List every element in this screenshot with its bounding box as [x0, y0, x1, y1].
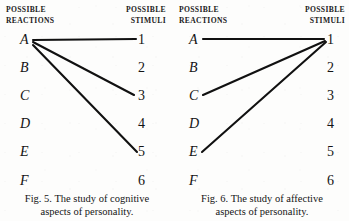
node-stimulus-1: 1: [138, 33, 145, 47]
node-reaction-a: A: [189, 33, 198, 47]
edge-a-to-3: [33, 42, 134, 95]
node-stimulus-2: 2: [138, 61, 145, 75]
figure-5-caption: Fig. 5. The study of cognitive aspects o…: [0, 193, 174, 218]
figure-6-caption-line-1: Fig. 6. The study of affective: [175, 193, 349, 206]
node-reaction-b: B: [20, 61, 29, 75]
node-stimulus-5: 5: [138, 145, 145, 159]
node-stimulus-3: 3: [327, 89, 334, 103]
node-reaction-e: E: [20, 145, 29, 159]
node-reaction-d: D: [20, 117, 30, 131]
column-heading-possible-stimuli: POSSIBLE STIMULI: [305, 5, 345, 26]
link-lines-fig-6: [175, 0, 349, 221]
figure-6: POSSIBLE REACTIONS POSSIBLE STIMULI A B …: [175, 0, 349, 221]
edge-c-to-1: [203, 41, 325, 95]
node-stimulus-2: 2: [327, 61, 334, 75]
node-reaction-c: C: [20, 89, 29, 103]
node-reaction-c: C: [189, 89, 198, 103]
node-reaction-b: B: [189, 61, 198, 75]
node-reaction-e: E: [189, 145, 198, 159]
column-heading-possible-reactions: POSSIBLE REACTIONS: [179, 5, 227, 26]
node-reaction-f: F: [20, 174, 29, 188]
node-stimulus-6: 6: [138, 174, 145, 188]
figure-5-caption-line-2: aspects of personality.: [0, 206, 174, 219]
column-heading-possible-stimuli: POSSIBLE STIMULI: [126, 5, 166, 26]
figure-6-caption-line-2: aspects of personality.: [175, 206, 349, 219]
figure-5: POSSIBLE REACTIONS POSSIBLE STIMULI A B …: [0, 0, 174, 221]
edge-e-to-1: [202, 42, 326, 152]
node-stimulus-4: 4: [138, 117, 145, 131]
node-stimulus-3: 3: [138, 89, 145, 103]
node-reaction-d: D: [189, 117, 199, 131]
node-reaction-f: F: [189, 174, 198, 188]
node-stimulus-5: 5: [327, 145, 334, 159]
edge-a-to-5: [33, 45, 137, 152]
node-stimulus-6: 6: [327, 174, 334, 188]
node-stimulus-4: 4: [327, 117, 334, 131]
figure-5-caption-line-1: Fig. 5. The study of cognitive: [0, 193, 174, 206]
figure-6-caption: Fig. 6. The study of affective aspects o…: [175, 193, 349, 218]
scanned-page: POSSIBLE REACTIONS POSSIBLE STIMULI A B …: [0, 0, 349, 221]
node-stimulus-1: 1: [327, 33, 334, 47]
node-reaction-a: A: [20, 33, 29, 47]
edge-a-to-1: [33, 39, 136, 40]
column-heading-possible-reactions: POSSIBLE REACTIONS: [6, 5, 54, 26]
